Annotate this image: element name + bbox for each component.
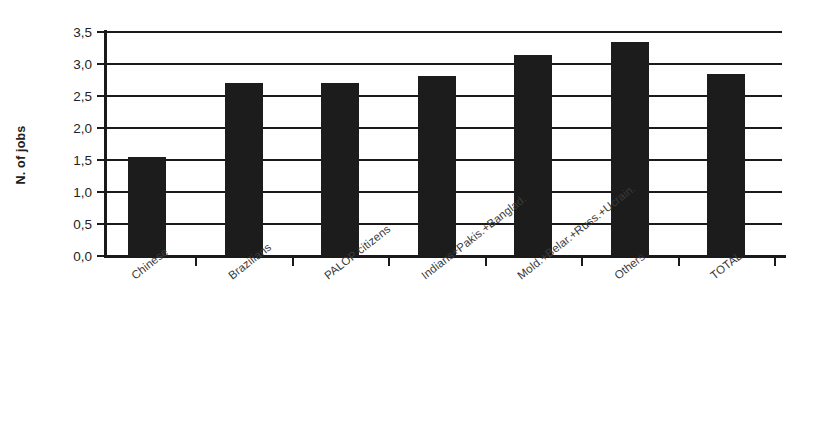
bar-chart: N. of jobs 0,00,51,01,52,02,53,03,5 Chin…: [0, 0, 819, 426]
bar: [128, 157, 166, 256]
gridline: [104, 31, 782, 33]
y-tick-label: 1,5: [73, 153, 92, 168]
y-tick-label: 0,5: [73, 217, 92, 232]
x-tick-mark: [292, 257, 294, 266]
x-tick-mark: [388, 257, 390, 266]
x-tick-mark: [774, 257, 776, 266]
y-axis-title: N. of jobs: [14, 100, 28, 210]
bar: [418, 76, 456, 256]
y-tick-mark: [97, 127, 105, 129]
x-tick-mark: [678, 257, 680, 266]
y-tick-mark: [97, 159, 105, 161]
x-tick-mark: [195, 257, 197, 266]
plot-area: 0,00,51,01,52,02,53,03,5: [104, 32, 782, 256]
bar: [225, 83, 263, 256]
y-tick-label: 2,0: [73, 121, 92, 136]
gridline: [104, 63, 782, 65]
y-tick-label: 0,0: [73, 249, 92, 264]
y-tick-label: 3,0: [73, 57, 92, 72]
y-tick-mark: [97, 255, 105, 257]
y-tick-mark: [97, 31, 105, 33]
bar: [707, 74, 745, 256]
y-tick-label: 3,5: [73, 25, 92, 40]
bar: [321, 83, 359, 256]
y-tick-mark: [97, 223, 105, 225]
y-tick-label: 2,5: [73, 89, 92, 104]
x-tick-mark: [581, 257, 583, 266]
bar: [514, 55, 552, 256]
y-tick-mark: [97, 63, 105, 65]
y-tick-label: 1,0: [73, 185, 92, 200]
y-tick-mark: [97, 191, 105, 193]
bar: [611, 42, 649, 256]
x-tick-mark: [485, 257, 487, 266]
y-tick-mark: [97, 95, 105, 97]
